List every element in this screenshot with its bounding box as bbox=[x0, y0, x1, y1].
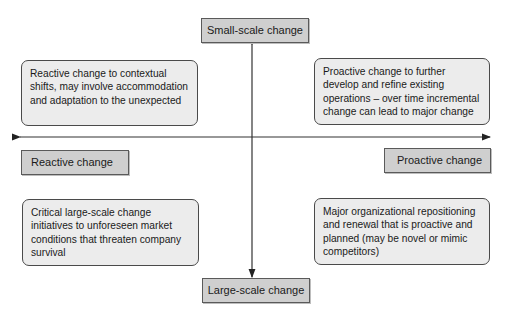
quadrant-bottom-right: Major organizational repositioning and r… bbox=[314, 198, 490, 265]
quadrant-top-left: Reactive change to contextual shifts, ma… bbox=[21, 60, 198, 126]
reactive-change-label: Reactive change bbox=[21, 150, 129, 175]
small-scale-change-label: Small-scale change bbox=[201, 18, 309, 43]
large-scale-change-label: Large-scale change bbox=[202, 278, 310, 303]
proactive-change-label: Proactive change bbox=[384, 148, 491, 173]
quadrant-bottom-left: Critical large-scale change initiatives … bbox=[22, 199, 199, 266]
quadrant-top-right: Proactive change to further develop and … bbox=[314, 58, 490, 125]
change-matrix-diagram: Small-scale change Large-scale change Re… bbox=[0, 0, 510, 314]
